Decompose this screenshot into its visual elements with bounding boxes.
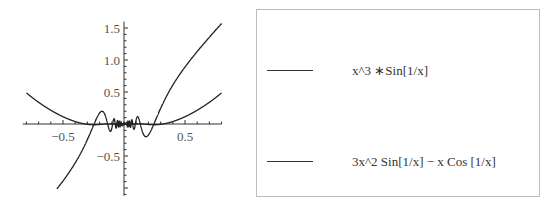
y-tick-label: −0.5 bbox=[96, 149, 120, 164]
legend-item-f: x^3 ∗Sin[1/x] bbox=[257, 61, 539, 81]
axes: −0.50.5−0.50.51.01.5 bbox=[23, 21, 222, 196]
plot-area: −0.50.5−0.50.51.01.5 bbox=[0, 0, 240, 218]
x-tick-label: 0.5 bbox=[177, 129, 193, 144]
legend-line-icon bbox=[267, 161, 313, 162]
x-tick-label: −0.5 bbox=[51, 129, 75, 144]
y-tick-label: 1.0 bbox=[104, 53, 120, 68]
legend-label: x^3 ∗Sin[1/x] bbox=[352, 61, 428, 81]
y-tick-label: 0.5 bbox=[104, 85, 120, 100]
legend-label: 3x^2 Sin[1/x] − x Cos [1/x] bbox=[352, 152, 496, 172]
y-tick-label: 1.5 bbox=[104, 21, 120, 36]
series-line bbox=[57, 24, 222, 189]
legend-line-icon bbox=[267, 70, 313, 71]
legend-box: x^3 ∗Sin[1/x] 3x^2 Sin[1/x] − x Cos [1/x… bbox=[256, 9, 540, 197]
legend-item-fprime: 3x^2 Sin[1/x] − x Cos [1/x] bbox=[257, 152, 539, 172]
